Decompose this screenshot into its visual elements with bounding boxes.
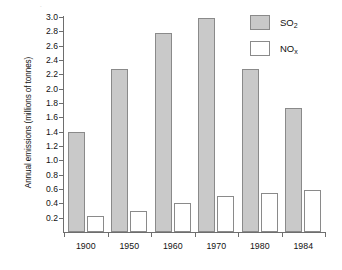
y-tick-mark: [59, 117, 63, 118]
y-tick-label: 0.4: [46, 198, 58, 208]
y-tick-label: 2.4: [46, 55, 58, 65]
x-tick-label-1900: 1900: [76, 241, 96, 251]
legend-item-nox: NOx: [250, 41, 298, 56]
bar-nox-1980: [261, 193, 278, 232]
legend-label-so2: SO2: [280, 17, 298, 28]
bar-so2-1960: [155, 33, 172, 232]
y-tick-mark: [59, 189, 63, 190]
x-tick-label-1980: 1980: [250, 241, 270, 251]
x-tick-label-1960: 1960: [163, 241, 183, 251]
y-tick-label: 3.0: [46, 12, 58, 22]
bar-so2-1950: [111, 69, 128, 232]
y-tick-mark: [59, 74, 63, 75]
y-tick-mark: [59, 175, 63, 176]
chart-legend: SO2 NOx: [250, 15, 298, 67]
emissions-bar-chart: . Annual emissions (millions of tonnes) …: [0, 0, 342, 270]
x-tick-label-1970: 1970: [206, 241, 226, 251]
bar-so2-1984: [285, 108, 302, 232]
bar-so2-1970: [198, 18, 215, 232]
x-tick-mark: [195, 233, 196, 237]
y-tick-mark: [59, 60, 63, 61]
y-tick-label: 0.8: [46, 170, 58, 180]
y-tick-label: 1.2: [46, 141, 58, 151]
y-tick-label: 1.0: [46, 155, 58, 165]
y-tick-label: 0.6: [46, 184, 58, 194]
corner-artifact: .: [40, 2, 42, 8]
x-tick-mark: [282, 233, 283, 237]
bar-nox-1984: [304, 190, 321, 232]
x-tick-mark: [238, 233, 239, 237]
x-tick-mark: [108, 233, 109, 237]
bar-so2-1900: [68, 132, 85, 232]
y-tick-mark: [59, 132, 63, 133]
y-tick-mark: [59, 160, 63, 161]
bar-so2-1980: [242, 69, 259, 232]
x-tick-mark: [64, 233, 65, 237]
y-tick-label: 2.0: [46, 84, 58, 94]
y-tick-label: 2.8: [46, 26, 58, 36]
y-tick-label: 2.2: [46, 69, 58, 79]
y-tick-mark: [59, 46, 63, 47]
y-tick-mark: [59, 218, 63, 219]
bar-nox-1970: [217, 196, 234, 232]
y-tick-mark: [59, 17, 63, 18]
bar-nox-1950: [130, 211, 147, 233]
legend-label-nox: NOx: [280, 43, 298, 54]
y-tick-mark: [59, 89, 63, 90]
x-tick-mark: [325, 233, 326, 237]
legend-item-so2: SO2: [250, 15, 298, 30]
legend-swatch-nox-icon: [250, 41, 270, 56]
y-tick-mark: [59, 103, 63, 104]
legend-swatch-so2-icon: [250, 15, 270, 30]
bar-nox-1960: [174, 203, 191, 232]
y-tick-mark: [59, 31, 63, 32]
y-axis-title: Annual emissions (millions of tonnes): [24, 33, 33, 213]
y-tick-label: 1.8: [46, 98, 58, 108]
x-tick-label-1984: 1984: [293, 241, 313, 251]
y-tick-label: 2.6: [46, 41, 58, 51]
bar-nox-1900: [87, 216, 104, 232]
x-tick-label-1950: 1950: [119, 241, 139, 251]
y-tick-mark: [59, 146, 63, 147]
y-tick-label: 1.4: [46, 127, 58, 137]
y-tick-label: 1.6: [46, 112, 58, 122]
y-tick-mark: [59, 203, 63, 204]
y-tick-label: 0.2: [46, 213, 58, 223]
x-tick-mark: [151, 233, 152, 237]
